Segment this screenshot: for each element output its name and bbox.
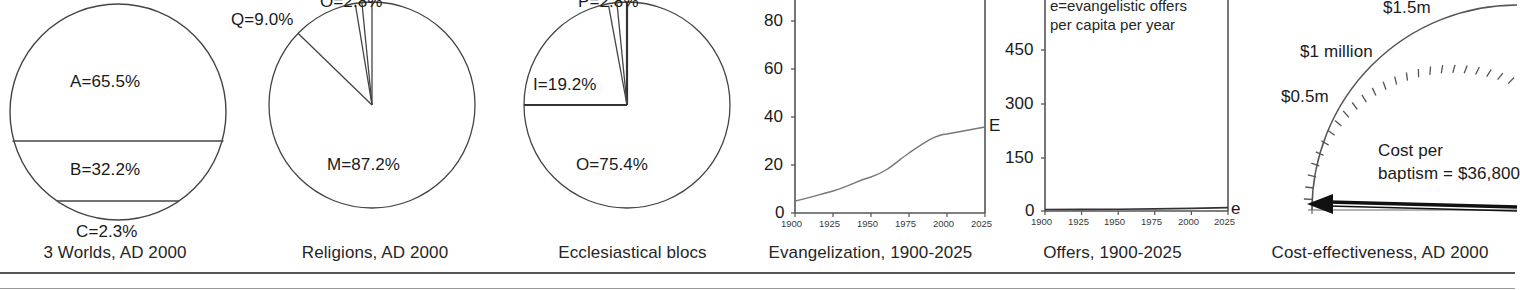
caption-evangelization: Evangelization, 1900-2025 (748, 243, 993, 263)
slice-edge-minor (609, 6, 627, 105)
label-p-top: P=2.8% (578, 0, 639, 12)
series-line-e (795, 127, 985, 201)
caption-cost-effectiveness: Cost-effectiveness, AD 2000 (1245, 243, 1515, 263)
three-worlds-circle (10, 4, 226, 220)
panel-three-worlds: A=65.5% B=32.2% C=2.3% 3 Worlds, AD 2000 (0, 0, 250, 290)
gauge-label-0-5m: $0.5m (1281, 87, 1329, 107)
y-tick-label-450: 450 (1005, 40, 1033, 60)
caption-religions: Religions, AD 2000 (245, 243, 505, 263)
label-m: M=87.2% (327, 155, 400, 175)
label-b: B=32.2% (70, 160, 140, 180)
x-tick-label-2000: 2000 (1178, 216, 1199, 227)
gauge-needle-note-line1: Cost per (1378, 141, 1443, 160)
panel-ecclesiastical-blocs: P=2.8% I=19.2% O=75.4% Ecclesiastical bl… (510, 0, 755, 290)
evangelization-line-chart (755, 0, 1000, 245)
ecclesiastical-pie (510, 0, 755, 245)
x-tick-label-2025: 2025 (971, 218, 992, 229)
x-tick-label-2000: 2000 (933, 218, 954, 229)
label-o-top: O=2.8% (320, 0, 383, 12)
panel-cost-effectiveness: $0.5m $1 million $1.5m Cost per baptism … (1245, 0, 1515, 290)
x-tick-label-1975: 1975 (1141, 216, 1162, 227)
label-q: Q=9.0% (231, 10, 294, 30)
label-a: A=65.5% (70, 72, 140, 92)
offers-note-line2: per capita per year (1050, 16, 1175, 33)
label-i: I=19.2% (533, 75, 597, 95)
gauge-needle (1307, 194, 1517, 214)
y-tick-label-60: 60 (764, 59, 783, 79)
y-tick-label-0: 0 (1025, 201, 1034, 221)
label-c: C=2.3% (76, 222, 138, 242)
gauge-label-1-million: $1 million (1300, 42, 1373, 62)
x-tick-label-1975: 1975 (895, 218, 916, 229)
y-tick-label-80: 80 (764, 11, 783, 31)
panel-religions: O=2.8% Q=9.0% M=87.2% Religions, AD 2000 (250, 0, 510, 290)
label-o: O=75.4% (576, 155, 648, 175)
caption-ecclesiastical-blocs: Ecclesiastical blocs (510, 243, 755, 263)
three-worlds-diagram (0, 0, 250, 245)
slice-edge-p (617, 3, 627, 106)
panel-evangelization: 1900 1925 1950 1975 2000 2025 0 20 40 60… (755, 0, 1000, 290)
series-label-e: E (989, 116, 1000, 136)
cost-effectiveness-gauge (1245, 0, 1520, 245)
series-line-e (1045, 208, 1228, 210)
gauge-needle-note-line2: baptism = $36,800 (1378, 164, 1520, 183)
y-tick-label-0: 0 (775, 203, 784, 223)
bottom-divider-rule (0, 272, 1515, 274)
x-tick-label-1950: 1950 (857, 218, 878, 229)
x-tick-label-1925: 1925 (819, 218, 840, 229)
caption-three-worlds: 3 Worlds, AD 2000 (0, 243, 240, 263)
gauge-label-1-5m: $1.5m (1383, 0, 1431, 18)
offers-line-chart (1000, 0, 1245, 245)
bottom-hairline-rule (0, 288, 1515, 289)
x-tick-label-1925: 1925 (1068, 216, 1089, 227)
caption-offers: Offers, 1900-2025 (990, 243, 1235, 263)
y-tick-label-40: 40 (764, 107, 783, 127)
offers-note-line1: e=evangelistic offers (1050, 0, 1187, 14)
series-label-e: e (1231, 199, 1240, 219)
y-tick-label-300: 300 (1005, 94, 1033, 114)
religions-pie (250, 0, 510, 245)
offers-note: e=evangelistic offers per capita per yea… (1050, 0, 1187, 34)
x-tick-label-1950: 1950 (1104, 216, 1125, 227)
y-tick-label-150: 150 (1005, 148, 1033, 168)
panel-offers: e=evangelistic offers per capita per yea… (1000, 0, 1245, 290)
gauge-needle-note: Cost per baptism = $36,800 (1378, 139, 1520, 185)
y-tick-label-20: 20 (764, 155, 783, 175)
slice-edge-q (298, 33, 372, 105)
